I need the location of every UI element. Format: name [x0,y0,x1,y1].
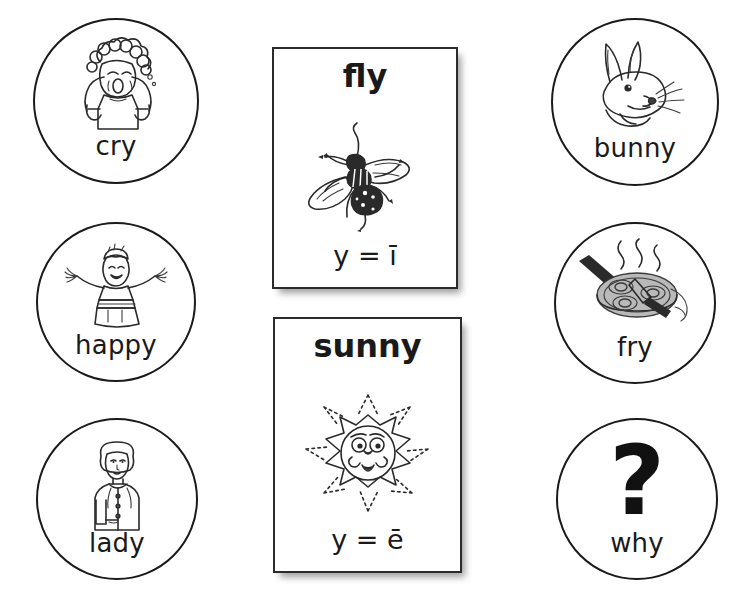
picture-token-lady[interactable]: lady [36,418,198,580]
token-label: happy [38,332,194,358]
picture-token-fry[interactable]: fry [554,222,716,384]
token-label: lady [38,530,196,556]
flashcard-word-y: y [366,57,387,95]
flashcard-rule: y = ē [275,526,460,553]
flashcard-sunny[interactable]: sunny [273,317,462,573]
flashcard-word: fly [274,56,456,96]
flashcard-word-stem: fl [343,57,367,95]
question-mark-glyph: ? [609,441,665,523]
picture-token-bunny[interactable]: bunny [551,18,719,186]
picture-token-cry[interactable]: cry [33,18,199,184]
token-label: cry [35,133,197,159]
picture-token-why[interactable]: ? why [556,418,718,580]
worksheet-canvas: cry [0,0,733,609]
flashcard-rule: y = ī [274,242,456,269]
woman-icon [38,433,196,531]
question-mark-icon: ? [558,433,716,531]
housefly-icon [274,125,456,225]
token-label: bunny [553,135,717,161]
frying-pan-icon [556,237,714,335]
flashcard-fly[interactable]: fly [272,47,458,289]
rabbit-head-icon [553,33,717,135]
flashcard-word-stem: sunn [313,327,400,365]
flashcard-word: sunny [275,326,460,366]
flashcard-word-y: y [401,327,422,365]
token-label: fry [556,334,714,360]
picture-token-happy[interactable]: happy [36,222,196,382]
cheering-child-icon [38,236,194,333]
smiling-sun-icon [275,400,460,506]
token-label: why [558,530,716,556]
crying-child-icon [35,33,197,133]
